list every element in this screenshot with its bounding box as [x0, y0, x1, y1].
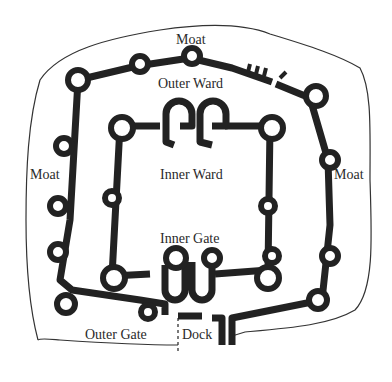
outer-tower-ne [306, 86, 326, 106]
inner-gate-tower-w [166, 248, 186, 268]
label-outer-ward: Outer Ward [158, 77, 223, 91]
outer-wall [60, 58, 330, 345]
inner-tower-ne [261, 117, 283, 139]
inner-tower-se [257, 267, 279, 289]
outer-tower-w1 [56, 138, 72, 154]
outer-tower-n1 [132, 56, 148, 72]
inner-tower-nw [111, 117, 133, 139]
inner-tower-e [261, 199, 275, 213]
north-gatehouse [166, 101, 226, 145]
inner-tower-w [105, 191, 119, 205]
label-inner-ward: Inner Ward [160, 168, 223, 182]
label-moat-right: Moat [334, 168, 364, 182]
inner-wall [112, 126, 270, 276]
outer-gate-tower [141, 305, 155, 319]
outer-tower-n2 [184, 48, 200, 64]
outer-tower-sw [57, 295, 75, 313]
label-dock: Dock [182, 328, 212, 342]
label-outer-gate: Outer Gate [85, 328, 147, 342]
outer-tower-e2 [322, 248, 338, 264]
inner-tower-e2 [265, 249, 279, 263]
label-inner-gate: Inner Gate [160, 232, 219, 246]
label-moat-left: Moat [30, 168, 60, 182]
inner-tower-sw [103, 267, 125, 289]
label-moat-top: Moat [176, 33, 206, 47]
castle-plan [0, 0, 392, 382]
inner-gate-tower-e [204, 250, 220, 266]
outer-tower-w3 [50, 244, 66, 260]
outer-tower-nw [68, 70, 88, 90]
outer-tower-w2 [50, 198, 66, 214]
outer-tower-e1 [322, 152, 338, 168]
outer-tower-se [309, 291, 327, 309]
